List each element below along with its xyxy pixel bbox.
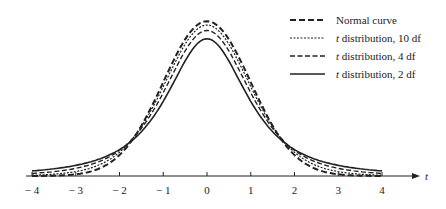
legend-label: Normal curve [336, 14, 397, 26]
x-tick-label: 3 [336, 184, 342, 196]
x-tick-label: − 1 [156, 184, 170, 196]
axis-arrow-icon [412, 173, 420, 179]
curves [32, 21, 382, 176]
legend-label: t distribution, 2 df [336, 68, 416, 80]
x-tick-label: 2 [292, 184, 298, 196]
x-tick-label: − 4 [25, 184, 40, 196]
x-tick-label: − 2 [112, 184, 126, 196]
x-tick-label: 0 [204, 184, 210, 196]
curve-t-2df [32, 39, 382, 171]
legend: Normal curvet distribution, 10 dft distr… [290, 14, 421, 80]
x-axis-label: t [425, 170, 429, 182]
curve-t-10df [32, 25, 382, 175]
legend-label: t distribution, 4 df [336, 50, 416, 62]
curve-t-4df [32, 31, 382, 174]
curve-normal [32, 21, 382, 176]
x-tick-label: 1 [248, 184, 254, 196]
x-tick-label: 4 [379, 184, 385, 196]
legend-label: t distribution, 10 df [336, 32, 421, 44]
x-axis: − 4− 3− 2− 101234t [25, 170, 429, 196]
x-tick-label: − 3 [69, 184, 84, 196]
t-distribution-chart: − 4− 3− 2− 101234t Normal curvet distrib… [0, 0, 446, 209]
